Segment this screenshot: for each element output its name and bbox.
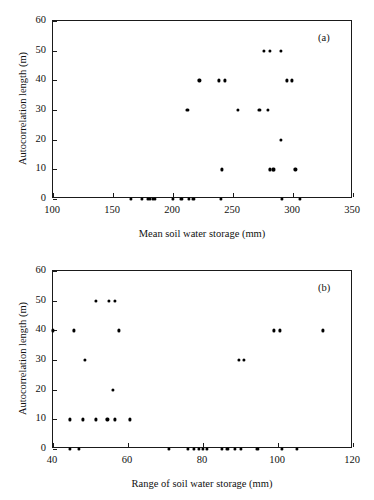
data-point: [192, 197, 195, 200]
data-point: [95, 418, 98, 421]
y-tick-a-60: [53, 21, 57, 22]
data-point: [219, 197, 222, 200]
x-tick-label-b-40: 40: [47, 455, 58, 466]
data-point: [171, 197, 174, 200]
x-tick-b-60: [128, 443, 129, 447]
y-tick-label-a-30: 30: [22, 104, 46, 115]
y-tick-label-b-60: 60: [22, 265, 46, 276]
data-point: [299, 197, 302, 200]
data-point: [221, 168, 224, 171]
data-point: [272, 168, 275, 171]
y-tick-b-0: [53, 449, 57, 450]
data-point: [95, 299, 98, 302]
plot-area-b: [52, 270, 352, 448]
data-point: [108, 299, 111, 302]
x-tick-label-a-200: 200: [164, 205, 180, 216]
data-point: [78, 447, 81, 450]
x-axis-title-b: Range of soil water storage (mm): [52, 478, 352, 489]
y-tick-label-b-40: 40: [22, 324, 46, 335]
data-point: [217, 79, 220, 82]
x-tick-b-40: [53, 443, 54, 447]
data-point: [321, 329, 324, 332]
y-tick-label-a-40: 40: [22, 74, 46, 85]
data-point: [290, 79, 293, 82]
y-tick-b-20: [53, 390, 57, 391]
data-point: [111, 388, 114, 391]
data-point: [113, 418, 116, 421]
data-point: [129, 197, 132, 200]
data-point: [233, 447, 236, 450]
x-tick-label-a-350: 350: [344, 205, 360, 216]
panel-letter-b: (b): [318, 282, 330, 293]
y-tick-label-a-20: 20: [22, 133, 46, 144]
data-point: [236, 108, 239, 111]
y-tick-b-30: [53, 360, 57, 361]
data-point: [113, 299, 116, 302]
data-point: [280, 447, 283, 450]
data-point: [269, 49, 272, 52]
y-tick-label-b-30: 30: [22, 354, 46, 365]
data-point: [295, 447, 298, 450]
y-tick-label-b-20: 20: [22, 383, 46, 394]
y-tick-b-10: [53, 419, 57, 420]
data-point: [239, 447, 242, 450]
y-tick-label-a-60: 60: [22, 15, 46, 26]
data-point: [68, 418, 71, 421]
data-point: [186, 447, 189, 450]
data-point: [72, 329, 75, 332]
data-point: [243, 358, 246, 361]
data-point: [83, 358, 86, 361]
data-point: [192, 447, 195, 450]
y-tick-a-30: [53, 110, 57, 111]
x-tick-a-350: [353, 193, 354, 197]
y-tick-b-60: [53, 271, 57, 272]
data-point: [266, 108, 269, 111]
data-point: [205, 447, 208, 450]
x-tick-label-a-300: 300: [284, 205, 300, 216]
x-tick-a-250: [233, 193, 234, 197]
data-point: [258, 108, 261, 111]
x-tick-b-100: [278, 443, 279, 447]
data-point: [117, 329, 120, 332]
plot-area-a: [52, 20, 352, 198]
data-point: [285, 79, 288, 82]
data-point: [281, 197, 284, 200]
data-point: [68, 447, 71, 450]
x-tick-a-150: [113, 193, 114, 197]
data-point: [279, 138, 282, 141]
figure-scatter-panels: Autocorrelation length (m) Mean soil wat…: [0, 0, 374, 500]
data-point: [201, 447, 204, 450]
data-point: [153, 197, 156, 200]
y-tick-a-50: [53, 51, 57, 52]
x-tick-b-120: [353, 443, 354, 447]
data-point: [279, 49, 282, 52]
data-point: [168, 447, 171, 450]
panel-letter-a: (a): [318, 32, 330, 43]
data-point: [180, 197, 183, 200]
x-tick-label-a-100: 100: [44, 205, 60, 216]
y-tick-label-b-10: 10: [22, 413, 46, 424]
y-tick-label-a-0: 0: [22, 193, 46, 204]
data-point: [237, 358, 240, 361]
y-tick-a-0: [53, 199, 57, 200]
data-point: [128, 418, 131, 421]
y-tick-a-20: [53, 140, 57, 141]
y-tick-label-b-50: 50: [22, 294, 46, 305]
data-point: [220, 447, 223, 450]
data-point: [226, 447, 229, 450]
data-point: [263, 49, 266, 52]
data-point: [106, 418, 109, 421]
data-point: [223, 79, 226, 82]
data-point: [273, 329, 276, 332]
x-tick-label-b-80: 80: [197, 455, 208, 466]
x-tick-a-100: [53, 193, 54, 197]
panel-b: Autocorrelation length (m) Range of soil…: [0, 250, 374, 500]
y-tick-label-a-10: 10: [22, 163, 46, 174]
data-point: [256, 447, 259, 450]
x-axis-title-a: Mean soil water storage (mm): [52, 228, 352, 239]
x-tick-a-300: [293, 193, 294, 197]
panel-a: Autocorrelation length (m) Mean soil wat…: [0, 0, 374, 250]
y-tick-a-40: [53, 80, 57, 81]
data-point: [198, 79, 201, 82]
data-point: [51, 329, 54, 332]
